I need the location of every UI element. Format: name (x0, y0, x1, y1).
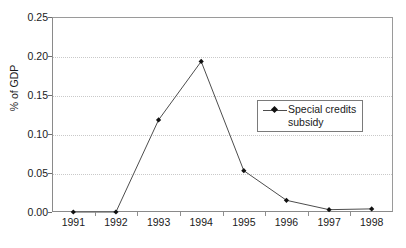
x-tick-mark (223, 212, 224, 216)
y-tick-label: 0.10 (2, 129, 48, 139)
data-point-marker (369, 206, 374, 211)
x-tick-mark (350, 212, 351, 216)
x-tick-mark (308, 212, 309, 216)
y-tick-mark (48, 212, 52, 213)
legend[interactable]: Special credits subsidy (257, 100, 363, 132)
series-line (73, 61, 371, 212)
y-axis: 0.000.050.100.150.200.25 (0, 17, 48, 212)
x-tick-mark (95, 212, 96, 216)
chart-screenshot: % of GDP 0.000.050.100.150.200.25 199119… (0, 0, 406, 248)
y-tick-label: 0.25 (2, 12, 48, 22)
x-tick-mark (180, 212, 181, 216)
diamond-marker-icon (262, 105, 288, 117)
data-point-marker (71, 209, 76, 214)
x-tick-label: 1998 (342, 216, 402, 228)
x-tick-mark (265, 212, 266, 216)
x-tick-mark (137, 212, 138, 216)
y-tick-label: 0.05 (2, 168, 48, 178)
data-point-marker (326, 207, 331, 212)
legend-entry-label: Special credits subsidy (288, 103, 356, 128)
x-axis: 19911992199319941995199619971998 (52, 216, 393, 236)
y-tick-label: 0.15 (2, 90, 48, 100)
legend-entry: Special credits subsidy (262, 103, 359, 128)
y-tick-label: 0.20 (2, 51, 48, 61)
y-tick-label: 0.00 (2, 207, 48, 217)
data-point-marker (113, 209, 118, 214)
